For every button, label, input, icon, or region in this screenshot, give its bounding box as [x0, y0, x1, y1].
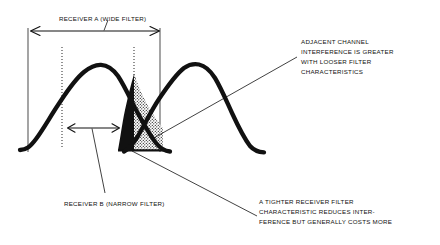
adjacent-channel-note-line-4: CHARACTERISTICS: [301, 68, 363, 75]
receiver-a-span-arrow: [31, 27, 160, 36]
adjacent-channel-note-line-3: WITH LOOSER FILTER: [301, 58, 372, 65]
interference-overlap-region: [116, 60, 166, 156]
tighter-filter-note: A TIGHTER RECEIVER FILTER CHARACTERISTIC…: [259, 198, 392, 225]
tighter-filter-note-line-3: FERENCE BUT GENERALLY COSTS MORE: [259, 218, 392, 225]
adjacent-channel-note: ADJACENT CHANNEL INTERFERENCE IS GREATER…: [301, 38, 394, 75]
receiver-b-leader-line: [92, 129, 105, 194]
receiver-b-label: RECEIVER B (NARROW FILTER): [64, 200, 165, 207]
adjacent-channel-note-line-2: INTERFERENCE IS GREATER: [301, 48, 394, 55]
tighter-filter-note-line-2: CHARACTERISTIC REDUCES INTER-: [259, 208, 375, 215]
interference-overlap-stipple-fill: [134, 60, 166, 156]
receiver-b-span-arrow: [68, 124, 120, 132]
adjacent-channel-note-line-1: ADJACENT CHANNEL: [301, 38, 369, 45]
adjacent-channel-leader-line: [152, 57, 297, 139]
receiver-filter-diagram: RECEIVER A (WIDE FILTER) RECEIVER B (NAR…: [0, 0, 440, 245]
tighter-filter-note-line-1: A TIGHTER RECEIVER FILTER: [259, 198, 354, 205]
receiver-a-label: RECEIVER A (WIDE FILTER): [59, 15, 146, 22]
diagram-canvas: RECEIVER A (WIDE FILTER) RECEIVER B (NAR…: [0, 0, 440, 245]
